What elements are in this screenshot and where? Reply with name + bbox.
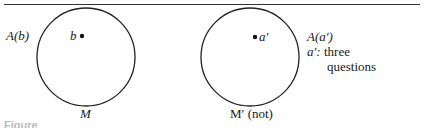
- annotation-line2: questions: [327, 60, 376, 74]
- point-label-a-prime: a′: [259, 30, 268, 44]
- circle-label-m-prime: M′ (not): [230, 107, 273, 121]
- annotation-three: three: [324, 44, 350, 59]
- figure-caption: Figure: [4, 119, 38, 128]
- set-label-a-a-prime: A(a′): [307, 30, 333, 44]
- point-label-b: b: [70, 29, 77, 43]
- annotation-line1: a′: three: [307, 45, 350, 59]
- point-b: [80, 34, 84, 38]
- annotation-prefix: a′:: [307, 44, 321, 59]
- set-label-a-b: A(b): [6, 29, 29, 43]
- circle-label-m: M: [80, 107, 91, 121]
- circle-m: [37, 8, 135, 106]
- circle-m-prime: [201, 8, 299, 106]
- point-a-prime: [253, 35, 257, 39]
